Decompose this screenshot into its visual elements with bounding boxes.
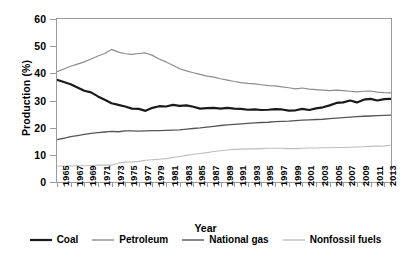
y-axis-tick-label: 0	[6, 177, 46, 188]
x-axis-tick-label: 1997	[279, 165, 289, 186]
series-line-national-gas	[57, 115, 391, 139]
production-line-chart: Production (%) 0102030405060 19651967196…	[0, 0, 411, 258]
x-axis-tick-label: 1975	[129, 165, 139, 186]
x-axis-tick-label: 1995	[265, 165, 275, 186]
legend-swatch-icon	[92, 236, 114, 244]
x-axis-tick-label: 1973	[116, 165, 126, 186]
x-axis-tick-label: 2009	[361, 165, 371, 186]
x-axis-tick-label: 1979	[156, 165, 166, 186]
legend-item-nonfossil-fuels[interactable]: Nonfossil fuels	[283, 234, 382, 245]
x-axis-tick-label: 1969	[88, 165, 98, 186]
legend-swatch-icon	[182, 236, 204, 244]
series-line-nonfossil-fuels	[57, 145, 391, 166]
x-axis-tick-label: 1985	[197, 165, 207, 186]
x-axis-tick	[57, 183, 58, 187]
x-axis-tick-label: 2007	[347, 165, 357, 186]
x-axis-tick-label: 1993	[252, 165, 262, 186]
x-axis-tick	[316, 183, 317, 187]
x-axis-tick	[275, 183, 276, 187]
legend-item-coal[interactable]: Coal	[30, 234, 79, 245]
legend-label: Nonfossil fuels	[310, 234, 382, 245]
y-axis-tick-label: 20	[6, 123, 46, 134]
legend-label: National gas	[209, 234, 268, 245]
x-axis-tick-label: 1983	[184, 165, 194, 186]
x-axis-tick	[357, 183, 358, 187]
x-axis-tick-label: 2003	[320, 165, 330, 186]
x-axis-tick	[207, 183, 208, 187]
x-axis-tick-label: 2013	[388, 165, 398, 186]
legend-label: Coal	[57, 234, 79, 245]
x-axis-tick-label: 1987	[211, 165, 221, 186]
x-axis-tick-label: 1971	[102, 165, 112, 186]
x-axis-tick	[166, 183, 167, 187]
x-axis-tick-label: 1981	[170, 165, 180, 186]
x-axis-tick-label: 1965	[61, 165, 71, 186]
plot-area	[56, 18, 392, 183]
y-axis-tick-label: 40	[6, 68, 46, 79]
x-axis-tick-label: 1991	[238, 165, 248, 186]
y-axis-tick-label: 30	[6, 96, 46, 107]
y-axis-tick-label: 50	[6, 41, 46, 52]
legend-label: Petroleum	[119, 234, 168, 245]
chart-legend: CoalPetroleumNational gasNonfossil fuels	[0, 234, 411, 245]
x-axis-title: Year	[0, 222, 411, 234]
x-axis-tick-label: 1999	[293, 165, 303, 186]
legend-swatch-icon	[283, 236, 305, 244]
x-axis-tick-label: 2005	[334, 165, 344, 186]
series-line-petroleum	[57, 49, 391, 92]
y-axis-tick-label: 60	[6, 14, 46, 25]
y-axis-tick-label: 10	[6, 150, 46, 161]
x-axis-tick-label: 2011	[375, 166, 385, 186]
series-lines	[57, 19, 391, 182]
x-axis-tick-label: 1989	[225, 165, 235, 186]
x-axis-tick-label: 1977	[143, 165, 153, 186]
x-axis-tick-label: 1967	[75, 165, 85, 186]
x-axis-tick	[98, 183, 99, 187]
series-line-coal	[57, 80, 391, 111]
legend-item-national-gas[interactable]: National gas	[182, 234, 268, 245]
x-axis-tick-label: 2001	[306, 165, 316, 186]
legend-item-petroleum[interactable]: Petroleum	[92, 234, 168, 245]
legend-swatch-icon	[30, 236, 52, 244]
